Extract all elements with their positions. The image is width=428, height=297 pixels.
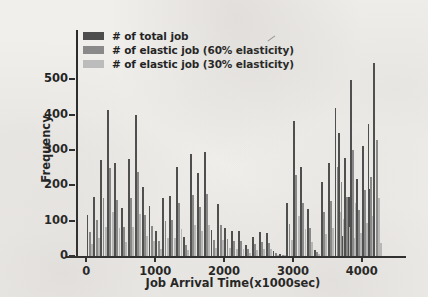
legend-item: # of elastic job (60% elasticity) [83,43,294,56]
bar-group [197,58,203,256]
bar-group [135,58,141,256]
bar-group [328,58,334,256]
bar-group [224,58,230,256]
bar-group [217,58,223,256]
bar-group [231,58,237,256]
bar-group [293,58,299,256]
x-tick-label: 4000 [346,264,378,278]
x-tick-label: 1000 [139,264,171,278]
bar-group [252,58,258,256]
bar-group [211,58,217,256]
bar-group [121,58,127,256]
bar-group [87,58,93,256]
bar-group [190,58,196,256]
x-tick-mark [223,256,225,262]
y-tick-label: 200 [44,177,68,191]
bar-group [93,58,99,256]
bar-group [183,58,189,256]
x-tick-label: 2000 [208,264,240,278]
legend-label: # of total job [112,30,188,42]
chart-legend: # of total job# of elastic job (60% elas… [83,29,294,71]
legend-swatch [83,60,104,68]
bar-chart-figure: Frequency Job Arrival Time(x1000sec) 010… [0,0,428,297]
bar-group [300,58,306,256]
y-tick-mark [69,114,75,116]
bar-group [149,58,155,256]
legend-item: # of total job [83,29,294,42]
x-tick-mark [85,256,87,262]
y-tick-mark [69,78,75,80]
y-tick-mark [69,220,75,222]
legend-swatch [83,32,104,40]
legend-item: # of elastic job (30% elasticity) [83,57,294,70]
y-tick-mark [69,149,75,151]
legend-swatch [83,46,104,54]
bar-group [128,58,134,256]
bar-group [238,58,244,256]
x-tick-label: 3000 [277,264,309,278]
bar-group [114,58,120,256]
x-tick-mark [292,256,294,262]
bar-group [307,58,313,256]
bar-group [245,58,251,256]
y-tick-mark [69,184,75,186]
bar-group [155,58,161,256]
bar-group [373,58,379,256]
x-axis-label: Job Arrival Time(x1000sec) [78,276,388,290]
y-tick-label: 300 [44,142,68,156]
bar-group [204,58,210,256]
bar-group [266,58,272,256]
y-tick-label: 400 [44,107,68,121]
y-tick-label: 0 [60,248,68,262]
bar-group [286,58,292,256]
bar-group [142,58,148,256]
bar-group [259,58,265,256]
plot-area: 0100200300400500 01000200030004000 [78,58,388,256]
y-tick-label: 500 [44,71,68,85]
bar [378,198,380,256]
legend-label: # of elastic job (60% elasticity) [112,44,294,56]
x-tick-mark [361,256,363,262]
bar-group [176,58,182,256]
bar-group [314,58,320,256]
y-tick-mark [69,255,75,257]
x-tick-mark [154,256,156,262]
bar-group [169,58,175,256]
bar [380,243,382,256]
bar-group [273,58,279,256]
bar-group [321,58,327,256]
y-tick-label: 100 [44,213,68,227]
bar-group [162,58,168,256]
legend-label: # of elastic job (30% elasticity) [112,58,294,70]
bar-group [107,58,113,256]
bar-group [279,58,285,256]
bars-layer [78,58,388,256]
bar-group [100,58,106,256]
x-tick-label: 0 [82,264,90,278]
